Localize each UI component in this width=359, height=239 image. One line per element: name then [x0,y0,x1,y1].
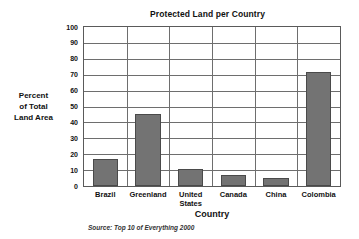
x-axis-tick-label-line: China [255,190,298,199]
source-note: Source: Top 10 of Everything 2000 [88,224,194,231]
y-axis-tick-label: 20 [56,151,78,158]
y-axis-title-line-3: Land Area [6,112,61,123]
x-axis-tick-label-canada: Canada [212,190,255,199]
y-axis-tick-label: 80 [56,55,78,62]
plot-inner [84,27,340,186]
x-axis-tick-label-line: Colombia [297,190,340,199]
bar-china [263,178,289,186]
bar-united-states [178,169,204,186]
y-axis-tick-label: 70 [56,71,78,78]
bar-colombia [306,72,332,186]
y-axis-title: Percent of Total Land Area [6,90,61,123]
gridline-vertical [212,27,213,186]
x-axis-tick-label-line: States [169,199,212,208]
y-axis-tick-label: 10 [56,167,78,174]
gridline-vertical [255,27,256,186]
y-axis-tick-label: 90 [56,39,78,46]
x-axis-tick-label-line: Canada [212,190,255,199]
y-axis-title-line-2: of Total [6,101,61,112]
bar-brazil [93,159,119,186]
y-axis-tick-label: 60 [56,87,78,94]
y-axis-title-line-1: Percent [6,90,61,101]
plot-area [83,26,341,187]
chart-figure: Protected Land per Country Percent of To… [0,0,359,239]
x-axis-tick-label-china: China [255,190,298,199]
bar-canada [221,175,247,186]
gridline-vertical [169,27,170,186]
x-axis-tick-label-brazil: Brazil [84,190,127,199]
y-axis-tick-label: 100 [56,24,78,31]
x-axis-tick-label-greenland: Greenland [127,190,170,199]
x-axis-tick-label-united-states: UnitedStates [169,190,212,208]
x-axis-tick-label-line: Greenland [127,190,170,199]
y-axis-tick-label: 40 [56,119,78,126]
y-axis-tick-label: 50 [56,103,78,110]
chart-title: Protected Land per Country [65,9,350,19]
y-axis-tick-label: 30 [56,135,78,142]
x-axis-tick-label-line: Brazil [84,190,127,199]
y-axis-tick-label: 0 [56,183,78,190]
gridline-vertical [297,27,298,186]
x-axis-title: Country [83,209,341,219]
x-axis-tick-label-colombia: Colombia [297,190,340,199]
bar-greenland [135,114,161,186]
x-axis-tick-label-line: United [169,190,212,199]
gridline-vertical [127,27,128,186]
